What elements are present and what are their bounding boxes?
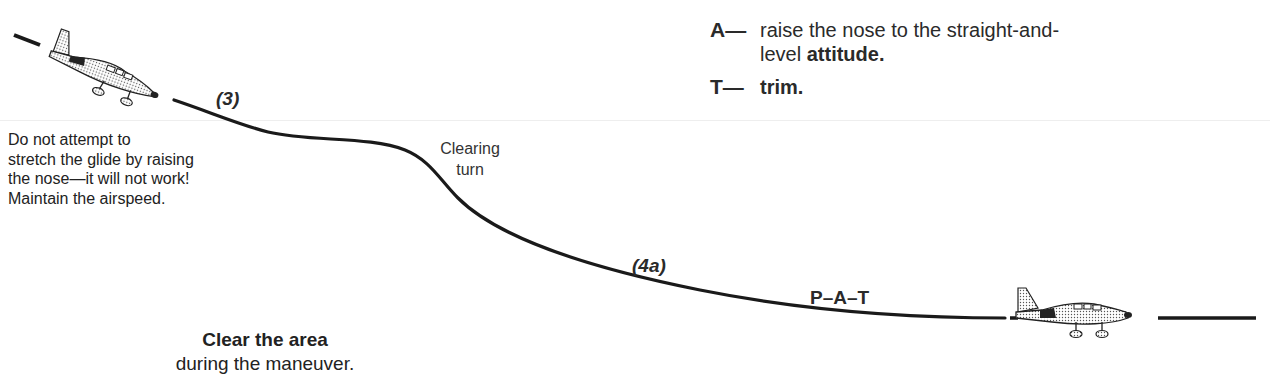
clear-area-caption: Clear the area during the maneuver. <box>150 328 380 376</box>
clear-area-heading: Clear the area <box>150 328 380 352</box>
step-3-label: (3) <box>216 88 239 110</box>
note-line: the nose—it will not work! <box>8 169 194 189</box>
step-4a-label: (4a) <box>632 255 666 277</box>
step-text-bold: attitude. <box>807 43 885 65</box>
pat-steps-list: A— raise the nose to the straight-and-le… <box>710 18 1080 99</box>
clearing-turn-line: Clearing <box>428 138 512 159</box>
step-text: raise the nose to the straight-and-level… <box>760 18 1080 66</box>
clear-area-subtext: during the maneuver. <box>150 352 380 376</box>
step-t: T— trim. <box>710 75 1080 99</box>
glide-warning-note: Do not attempt to stretch the glide by r… <box>8 130 194 208</box>
note-line: Do not attempt to <box>8 130 194 150</box>
glide-path-line <box>174 100 1005 318</box>
step-text-bold: trim. <box>760 75 803 99</box>
airplane-descending-icon <box>43 28 169 114</box>
note-line: Maintain the airspeed. <box>8 189 194 209</box>
step-key: A— <box>710 18 760 66</box>
path-dash-start <box>14 35 40 45</box>
step-key: T— <box>710 75 760 99</box>
pat-label: P–A–T <box>810 287 869 309</box>
step-text-normal: raise the nose to the straight-and-level <box>760 19 1059 65</box>
airplane-level-icon <box>1010 288 1132 338</box>
clearing-turn-label: Clearing turn <box>428 138 512 180</box>
note-line: stretch the glide by raising <box>8 150 194 170</box>
step-a: A— raise the nose to the straight-and-le… <box>710 18 1080 66</box>
clearing-turn-line: turn <box>428 159 512 180</box>
